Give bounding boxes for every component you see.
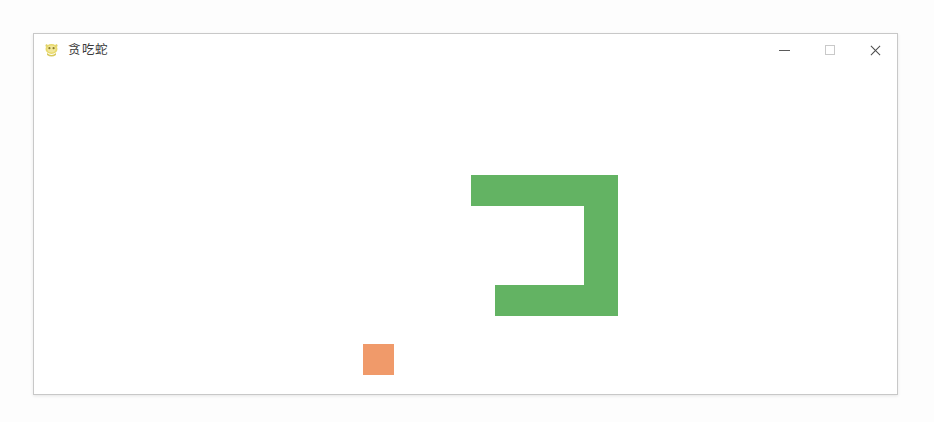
maximize-icon: [825, 45, 835, 55]
food-item: [363, 344, 394, 375]
window-title-bar[interactable]: 贪吃蛇: [34, 34, 897, 66]
snake-segment: [495, 285, 618, 316]
minimize-icon: [779, 50, 790, 51]
minimize-button[interactable]: [762, 34, 807, 66]
maximize-button[interactable]: [807, 34, 852, 66]
close-button[interactable]: [852, 34, 897, 66]
window-title-text: 贪吃蛇: [68, 44, 109, 57]
snake-game-window: 贪吃蛇: [33, 33, 898, 395]
window-controls: [762, 34, 897, 66]
desktop-background: 贪吃蛇: [0, 0, 934, 422]
game-board[interactable]: [34, 66, 897, 394]
close-icon: [868, 44, 881, 57]
snake-app-icon: [43, 42, 60, 59]
